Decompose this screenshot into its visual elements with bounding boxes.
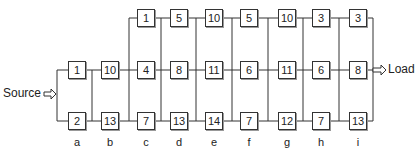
column-label-d: d (171, 136, 187, 148)
component-d-bottom: 13 (170, 112, 188, 130)
column-label-i: i (350, 136, 366, 148)
column-label-e: e (206, 136, 222, 148)
component-d-top: 5 (170, 9, 188, 27)
component-e-middle: 11 (205, 61, 223, 79)
component-f-bottom: 7 (240, 112, 258, 130)
load-arrow-icon (373, 65, 386, 75)
source-arrow-icon (44, 89, 56, 99)
column-label-f: f (241, 136, 257, 148)
column-label-g: g (279, 136, 295, 148)
component-e-top: 10 (205, 9, 223, 27)
load-label: Load (388, 62, 415, 76)
component-i-top: 3 (349, 9, 367, 27)
component-d-middle: 8 (170, 61, 188, 79)
component-g-middle: 11 (278, 61, 296, 79)
component-b-middle: 10 (101, 61, 119, 79)
component-c-bottom: 7 (137, 112, 155, 130)
component-b-bottom: 13 (101, 112, 119, 130)
component-h-middle: 6 (312, 61, 330, 79)
column-label-c: c (138, 136, 154, 148)
component-e-bottom: 14 (205, 112, 223, 130)
component-a-bottom: 2 (68, 112, 86, 130)
component-g-top: 10 (278, 9, 296, 27)
component-h-bottom: 7 (312, 112, 330, 130)
component-g-bottom: 12 (278, 112, 296, 130)
component-c-top: 1 (137, 9, 155, 27)
component-c-middle: 4 (137, 61, 155, 79)
component-i-bottom: 13 (349, 112, 367, 130)
component-f-middle: 6 (240, 61, 258, 79)
column-label-h: h (313, 136, 329, 148)
component-a-middle: 1 (68, 61, 86, 79)
component-h-top: 3 (312, 9, 330, 27)
column-label-b: b (102, 136, 118, 148)
component-f-top: 5 (240, 9, 258, 27)
source-label: Source (3, 86, 41, 100)
column-label-a: a (69, 136, 85, 148)
component-i-middle: 8 (349, 61, 367, 79)
